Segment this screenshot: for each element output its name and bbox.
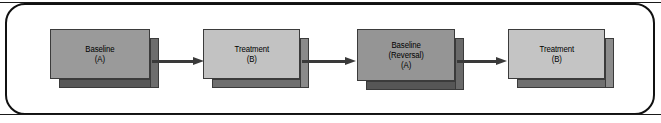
node-front-face: Baseline (A) (50, 29, 150, 79)
node-label: Baseline (A) (85, 44, 114, 64)
node-label-line: (A) (388, 60, 423, 70)
node-label-line: (Reversal) (388, 50, 423, 60)
flow-diagram: Baseline (A) Treatment (B) (0, 0, 661, 123)
arrow-shaft (457, 60, 496, 63)
node-label-line: (B) (234, 54, 269, 64)
arrow-head-icon (345, 57, 356, 65)
arrow-head-icon (496, 57, 507, 65)
node-label-line: Treatment (234, 44, 269, 54)
scan-rule-top (0, 2, 661, 3)
node-label: Treatment (B) (539, 44, 574, 64)
node-label-line: Treatment (539, 44, 574, 54)
node-label: Treatment (B) (234, 44, 269, 64)
scan-rule-bottom (0, 114, 661, 115)
flow-node-treatment-b-2[interactable]: Treatment (B) (508, 29, 614, 88)
arrow-head-icon (193, 57, 204, 65)
node-bottom-face (517, 79, 614, 88)
node-bottom-face (366, 81, 464, 90)
flow-arrow-3 (457, 57, 507, 66)
figure-root: Baseline (A) Treatment (B) (0, 0, 661, 123)
arrow-shaft (302, 60, 345, 63)
node-bottom-face (212, 79, 309, 88)
node-bottom-face (59, 79, 159, 88)
node-side-face (605, 38, 614, 88)
node-label-line: (B) (539, 54, 574, 64)
flow-arrow-2 (302, 57, 356, 66)
flow-node-treatment-b-1[interactable]: Treatment (B) (203, 29, 309, 88)
node-front-face: Baseline (Reversal) (A) (357, 29, 455, 81)
node-label-line: (A) (85, 54, 114, 64)
node-label-line: Baseline (388, 40, 423, 50)
flow-node-baseline-a[interactable]: Baseline (A) (50, 29, 159, 88)
arrow-shaft (152, 60, 193, 63)
node-front-face: Treatment (B) (508, 29, 605, 79)
node-front-face: Treatment (B) (203, 29, 300, 79)
flow-arrow-1 (152, 57, 204, 66)
flow-node-baseline-reversal-a[interactable]: Baseline (Reversal) (A) (357, 29, 464, 90)
node-label: Baseline (Reversal) (A) (388, 40, 423, 70)
node-label-line: Baseline (85, 44, 114, 54)
